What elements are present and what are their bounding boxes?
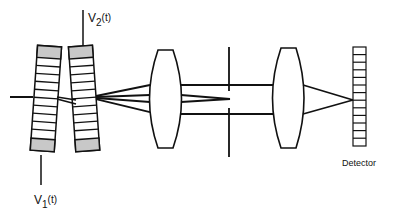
- modulator-1-top-electrode: [37, 45, 62, 59]
- lens-2: [273, 48, 305, 148]
- modulator-2-bottom-electrode: [75, 138, 100, 152]
- modulator-1: [30, 45, 61, 151]
- optical-diagram: [0, 0, 393, 215]
- v2-label-arg: (t): [102, 12, 111, 23]
- detector-array: [353, 47, 366, 146]
- v2-label-main: V: [88, 11, 96, 25]
- modulator-2: [68, 45, 99, 151]
- v1-label-sub: 1: [42, 199, 48, 210]
- modulator-2-top-electrode: [68, 45, 93, 59]
- v1-label-main: V: [34, 193, 42, 207]
- lens-1: [150, 50, 182, 148]
- v2-label-sub: 2: [96, 17, 102, 28]
- rays-lens-1-to-aperture: [181, 85, 255, 114]
- modulator-1-bottom-electrode: [30, 138, 55, 152]
- v1-label: V1(t): [34, 190, 57, 208]
- rays-to-lens-1: [96, 85, 150, 112]
- rays-aperture-to-lens-2: [229, 85, 273, 114]
- detector-label: Detector: [342, 158, 376, 168]
- v1-label-arg: (t): [48, 194, 57, 205]
- rays-to-detector: [303, 85, 353, 114]
- v2-label: V2(t): [88, 8, 111, 26]
